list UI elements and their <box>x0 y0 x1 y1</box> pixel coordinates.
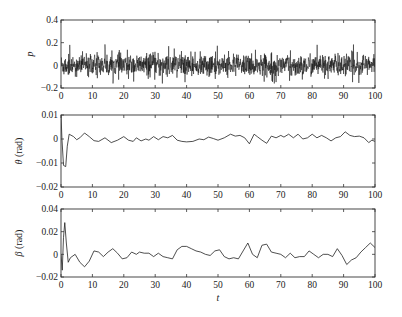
x-tick-label: 100 <box>368 280 383 290</box>
y-tick-label: 0.2 <box>46 38 58 48</box>
data-line <box>61 223 375 271</box>
noise-signal <box>61 44 375 83</box>
x-tick-label: 20 <box>119 91 129 101</box>
x-tick-label: 20 <box>119 280 129 290</box>
x-tick-label: 90 <box>339 190 349 200</box>
p-panel: 0102030405060708090100−0.200.20.4p <box>24 15 382 101</box>
x-tick-label: 40 <box>182 190 192 200</box>
figure: 0102030405060708090100−0.200.20.4p 01020… <box>0 0 402 317</box>
x-tick-label: 40 <box>182 280 192 290</box>
y-tick-label: −0.01 <box>36 158 58 168</box>
x-tick-label: 100 <box>368 91 383 101</box>
plot-frame <box>61 209 375 277</box>
x-tick-label: 90 <box>339 280 349 290</box>
y-tick-label: 0.01 <box>41 110 58 120</box>
x-tick-label: 10 <box>88 190 98 200</box>
x-tick-label: 60 <box>245 91 255 101</box>
y-tick-label: −0.02 <box>36 182 58 192</box>
x-tick-label: 70 <box>276 91 286 101</box>
y-tick-label: 0.02 <box>41 227 58 237</box>
x-tick-label: 100 <box>368 190 383 200</box>
x-tick-label: 80 <box>307 280 317 290</box>
y-tick-label: −0.2 <box>41 83 58 93</box>
p-axis-label: p <box>24 52 35 58</box>
theta-panel: 0102030405060708090100−0.02−0.0100.01θ (… <box>13 110 382 200</box>
theta-axis-label: θ (rad) <box>13 138 25 165</box>
x-tick-label: 40 <box>182 91 192 101</box>
data-line <box>61 115 375 167</box>
beta-panel: 0102030405060708090100−0.0200.020.04β (r… <box>13 204 382 303</box>
y-tick-label: 0 <box>53 250 58 260</box>
x-tick-label: 60 <box>245 280 255 290</box>
x-tick-label: 0 <box>59 190 64 200</box>
x-tick-label: 30 <box>150 91 160 101</box>
x-tick-label: 20 <box>119 190 129 200</box>
x-tick-label: 0 <box>59 280 64 290</box>
y-tick-label: 0.4 <box>46 15 58 25</box>
y-tick-label: 0.04 <box>41 204 58 214</box>
x-tick-label: 50 <box>213 91 223 101</box>
x-tick-label: 10 <box>88 91 98 101</box>
x-tick-label: 30 <box>150 280 160 290</box>
x-tick-label: 80 <box>307 91 317 101</box>
x-tick-label: 0 <box>59 91 64 101</box>
x-tick-label: 80 <box>307 190 317 200</box>
x-tick-label: 70 <box>276 280 286 290</box>
x-tick-label: 50 <box>213 280 223 290</box>
plot-frame <box>61 115 375 187</box>
x-tick-label: 70 <box>276 190 286 200</box>
x-tick-label: 50 <box>213 190 223 200</box>
x-tick-label: 60 <box>245 190 255 200</box>
x-tick-label: 10 <box>88 280 98 290</box>
y-tick-label: 0 <box>53 61 58 71</box>
x-axis-label: t <box>217 292 220 303</box>
beta-axis-label: β (rad) <box>13 230 25 258</box>
y-tick-label: −0.02 <box>36 272 58 282</box>
y-tick-label: 0 <box>53 134 58 144</box>
x-tick-label: 90 <box>339 91 349 101</box>
x-tick-label: 30 <box>150 190 160 200</box>
